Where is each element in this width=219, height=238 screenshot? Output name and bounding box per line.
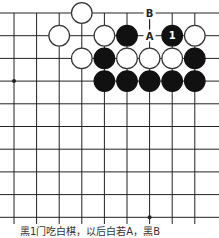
black-stone bbox=[185, 71, 206, 92]
diagram-caption: 黑1门吃白棋，以后白若A，黑B bbox=[20, 226, 219, 238]
white-stone bbox=[139, 48, 160, 69]
star-point bbox=[12, 79, 16, 83]
white-stone bbox=[49, 25, 70, 46]
black-stone bbox=[94, 71, 115, 92]
white-stone bbox=[117, 48, 138, 69]
white-stone bbox=[94, 25, 115, 46]
black-stone bbox=[185, 48, 206, 69]
black-stone bbox=[139, 71, 160, 92]
position-marker-b: B bbox=[146, 8, 154, 19]
black-stone bbox=[117, 25, 138, 46]
black-stone bbox=[94, 48, 115, 69]
white-stone bbox=[185, 25, 206, 46]
black-stone bbox=[117, 71, 138, 92]
position-marker-a: A bbox=[146, 31, 154, 42]
white-stone bbox=[72, 48, 93, 69]
white-stone bbox=[72, 3, 93, 24]
move-number-label: 1 bbox=[169, 30, 176, 41]
markers: BA bbox=[144, 7, 156, 42]
black-stone bbox=[162, 71, 183, 92]
white-stone bbox=[162, 48, 183, 69]
star-point bbox=[148, 215, 152, 219]
go-board: 1 BA bbox=[0, 0, 219, 238]
